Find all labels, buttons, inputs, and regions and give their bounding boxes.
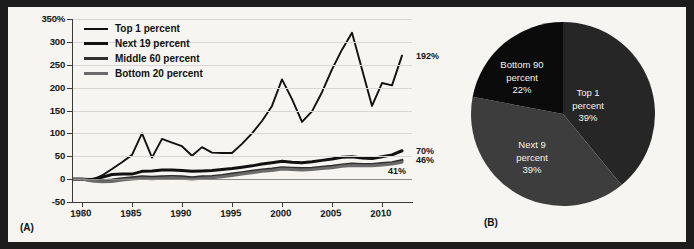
x-axis-tick-mark: [282, 202, 283, 207]
series-end-value-label: 70%: [416, 146, 434, 156]
legend-color-swatch: [84, 42, 108, 45]
legend-item[interactable]: Middle 60 percent: [84, 51, 244, 66]
legend-item[interactable]: Top 1 percent: [84, 21, 244, 36]
x-axis-tick-mark: [132, 202, 133, 207]
x-axis-tick-label: 1980: [70, 207, 92, 219]
series-end-value-label: 192%: [416, 51, 439, 61]
pie-slice-label-line2: percent: [482, 72, 562, 85]
legend-color-swatch: [84, 57, 108, 60]
x-axis-tick-mark: [382, 202, 383, 207]
y-axis-tick-mark: [67, 42, 73, 43]
x-axis-tick-label: 1990: [170, 207, 192, 219]
x-axis-tick-mark: [182, 202, 183, 207]
panel-a-line-chart: 350%300250200150100500-50 19801985199019…: [8, 7, 448, 242]
pie-slice-label-line2: percent: [492, 152, 572, 165]
gridline: [72, 111, 412, 112]
panel-b-pie-chart: Top 1percent39%Next 9percent39%Bottom 90…: [448, 7, 686, 242]
gridline: [72, 133, 412, 134]
y-axis-tick-mark: [67, 88, 73, 89]
y-axis-tick-label: 0: [13, 173, 65, 184]
x-axis-tick-label: 1985: [120, 207, 142, 219]
y-axis-tick-label: 200: [13, 82, 65, 93]
chart-legend: Top 1 percentNext 19 percentMiddle 60 pe…: [84, 21, 244, 81]
legend-item-label: Next 19 percent: [115, 38, 189, 49]
pie-slice-label-line1: Next 9: [492, 139, 572, 152]
gridline: [72, 88, 412, 89]
figure-container: 350%300250200150100500-50 19801985199019…: [0, 0, 694, 249]
series-end-value-label: 46%: [416, 155, 434, 165]
pie-slice-label: Bottom 90percent22%: [482, 59, 562, 97]
pie-slice-value: 22%: [482, 84, 562, 97]
x-axis-tick-mark: [82, 202, 83, 207]
gridline: [72, 19, 412, 20]
gridline: [72, 179, 412, 180]
y-axis-tick-label: 300: [13, 36, 65, 47]
y-axis-tick-mark: [67, 19, 73, 20]
legend-item-label: Bottom 20 percent: [115, 68, 203, 79]
y-axis-tick-label: 150: [13, 105, 65, 116]
gridline: [72, 156, 412, 157]
x-axis-tick-label: 2010: [370, 207, 392, 219]
y-axis-tick-label: 100: [13, 127, 65, 138]
y-axis-tick-mark: [67, 202, 73, 203]
legend-item[interactable]: Next 19 percent: [84, 36, 244, 51]
pie-area: Top 1percent39%Next 9percent39%Bottom 90…: [470, 21, 656, 207]
x-axis-tick-label: 2005: [320, 207, 342, 219]
legend-item-label: Middle 60 percent: [115, 53, 199, 64]
y-axis-tick-label: 350%: [13, 13, 65, 24]
y-axis-tick-labels: 350%300250200150100500-50: [8, 7, 65, 242]
figure-inner-panel: 350%300250200150100500-50 19801985199019…: [8, 7, 686, 242]
x-axis-tick-label: 1995: [220, 207, 242, 219]
y-axis-tick-mark: [67, 111, 73, 112]
x-axis-tick-mark: [232, 202, 233, 207]
series-end-value-label: 41%: [388, 166, 406, 176]
y-axis-tick-label: 50: [13, 150, 65, 161]
pie-slice-value: 39%: [492, 164, 572, 177]
pie-slice-label: Next 9percent39%: [492, 139, 572, 177]
x-axis-line: [72, 202, 413, 203]
pie-slice-label-line1: Bottom 90: [482, 59, 562, 72]
panel-a-tag: (A): [20, 222, 34, 233]
y-axis-tick-label: -50: [13, 196, 65, 207]
y-axis-tick-mark: [67, 156, 73, 157]
legend-color-swatch: [84, 28, 108, 30]
pie-slice-label-line2: percent: [548, 100, 628, 113]
y-axis-tick-mark: [67, 179, 73, 180]
x-axis-tick-mark: [332, 202, 333, 207]
y-axis-tick-label: 250: [13, 59, 65, 70]
legend-item-label: Top 1 percent: [115, 23, 180, 34]
pie-slice-value: 39%: [548, 112, 628, 125]
x-axis-tick-label: 2000: [270, 207, 292, 219]
legend-item[interactable]: Bottom 20 percent: [84, 66, 244, 81]
legend-color-swatch: [84, 72, 108, 75]
panel-b-tag: (B): [484, 217, 498, 228]
y-axis-tick-mark: [67, 133, 73, 134]
y-axis-tick-mark: [67, 65, 73, 66]
